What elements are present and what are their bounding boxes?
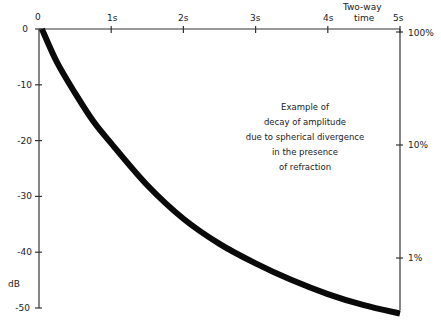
x-axis-title-line2: time bbox=[354, 13, 374, 23]
x-tick-label-5s: 5s bbox=[393, 13, 403, 23]
y-tick-label-50: -50 bbox=[0, 303, 30, 313]
decay-chart: 0 1s 2s 3s 4s 5s Two-way time 0 -10 -20 … bbox=[0, 0, 441, 327]
right-tick-label-10: 10% bbox=[408, 140, 428, 150]
y-tick-label-30: -30 bbox=[2, 191, 32, 201]
y-tick-label-10: -10 bbox=[2, 80, 32, 90]
annotation-line-1: Example of bbox=[230, 100, 380, 115]
x-tick-label-4s: 4s bbox=[323, 13, 333, 23]
annotation-line-2: decay of amplitude bbox=[230, 115, 380, 130]
x-tick-label-0: 0 bbox=[35, 12, 41, 22]
x-tick-label-3s: 3s bbox=[250, 13, 260, 23]
y-axis-unit: dB bbox=[8, 279, 20, 289]
right-tick-label-100: 100% bbox=[408, 28, 434, 38]
x-axis-title-line1: Two-way bbox=[343, 2, 382, 12]
x-tick-label-1s: 1s bbox=[107, 13, 117, 23]
annotation-line-3: due to spherical divergence bbox=[230, 130, 380, 145]
annotation-line-5: of refraction bbox=[230, 160, 380, 175]
y-tick-label-20: -20 bbox=[2, 136, 32, 146]
chart-annotation: Example of decay of amplitude due to sph… bbox=[230, 100, 380, 175]
right-tick-label-1: 1% bbox=[408, 253, 422, 263]
annotation-line-4: in the presence bbox=[230, 145, 380, 160]
y-tick-label-0: 0 bbox=[0, 24, 28, 34]
x-tick-label-2s: 2s bbox=[178, 13, 188, 23]
cropped-caption bbox=[26, 321, 426, 327]
y-tick-label-40: -40 bbox=[2, 247, 32, 257]
